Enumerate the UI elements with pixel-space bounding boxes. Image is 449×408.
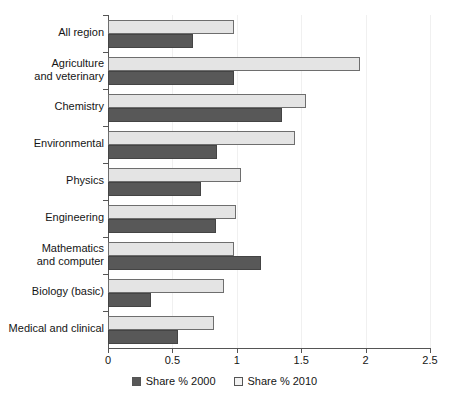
category-label-line: and computer [0, 255, 104, 268]
category-label: All region [0, 26, 104, 39]
legend-label: Share % 2010 [248, 375, 318, 387]
category-label: Chemistry [0, 100, 104, 113]
category-label-line: Environmental [0, 137, 104, 150]
x-axis-tick-label: 1 [217, 354, 257, 366]
x-axis-tick [237, 348, 238, 353]
bar-share-2010 [108, 279, 224, 293]
y-axis-tick [103, 52, 108, 53]
y-axis-tick [103, 237, 108, 238]
y-axis-tick [103, 163, 108, 164]
category-label-line: Physics [0, 174, 104, 187]
category-label-line: Biology (basic) [0, 285, 104, 298]
category-label-line: Engineering [0, 211, 104, 224]
bar-share-2010 [108, 20, 234, 34]
category-label: Agricultureand veterinary [0, 57, 104, 83]
x-axis-tick [172, 348, 173, 353]
gridline [366, 15, 367, 348]
category-label: Mathematicsand computer [0, 242, 104, 268]
category-label-line: Mathematics [0, 242, 104, 255]
bar-share-2000 [108, 330, 178, 344]
legend-item: Share % 2010 [234, 375, 318, 387]
bar-share-2000 [108, 293, 151, 307]
x-axis-tick [301, 348, 302, 353]
category-label-line: Medical and clinical [0, 322, 104, 335]
bar-share-2000 [108, 108, 282, 122]
bar-share-2000 [108, 145, 217, 159]
x-axis-tick-label: 0 [88, 354, 128, 366]
y-axis-tick [103, 200, 108, 201]
legend-label: Share % 2000 [146, 375, 216, 387]
x-axis-tick [430, 348, 431, 353]
bar-share-2010 [108, 94, 306, 108]
y-axis-tick [103, 126, 108, 127]
x-axis-tick-label: 2.5 [410, 354, 449, 366]
legend-item: Share % 2000 [132, 375, 216, 387]
bar-share-2010 [108, 57, 360, 71]
x-axis-line [108, 348, 430, 349]
category-label: Environmental [0, 137, 104, 150]
bar-chart: All regionAgricultureand veterinaryChemi… [0, 0, 449, 408]
bar-share-2010 [108, 131, 295, 145]
category-label: Physics [0, 174, 104, 187]
category-label: Biology (basic) [0, 285, 104, 298]
y-axis-tick [103, 89, 108, 90]
bar-share-2000 [108, 71, 234, 85]
category-label-line: Agriculture [0, 57, 104, 70]
bar-share-2010 [108, 205, 236, 219]
x-axis-tick [108, 348, 109, 353]
bar-share-2000 [108, 219, 216, 233]
category-label-line: Chemistry [0, 100, 104, 113]
category-label-line: and veterinary [0, 70, 104, 83]
y-axis-tick [103, 15, 108, 16]
legend-swatch-icon [132, 377, 141, 386]
bar-share-2000 [108, 34, 193, 48]
y-axis-tick [103, 274, 108, 275]
chart-legend: Share % 2000Share % 2010 [0, 375, 449, 387]
legend-swatch-icon [234, 377, 243, 386]
category-label-line: All region [0, 26, 104, 39]
bar-share-2010 [108, 316, 214, 330]
x-axis-tick [366, 348, 367, 353]
category-label: Medical and clinical [0, 322, 104, 335]
bar-share-2010 [108, 168, 241, 182]
bar-share-2010 [108, 242, 234, 256]
bar-share-2000 [108, 182, 201, 196]
bar-share-2000 [108, 256, 261, 270]
y-axis-tick [103, 311, 108, 312]
x-axis-tick-label: 2 [346, 354, 386, 366]
gridline [430, 15, 431, 348]
category-label: Engineering [0, 211, 104, 224]
x-axis-tick-label: 0.5 [152, 354, 192, 366]
x-axis-tick-label: 1.5 [281, 354, 321, 366]
